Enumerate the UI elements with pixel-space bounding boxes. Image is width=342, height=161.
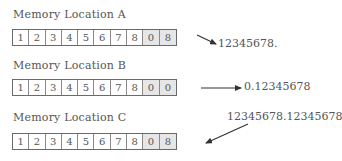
arrow-c-icon — [206, 124, 248, 143]
digit-cell: 6 — [94, 80, 110, 95]
digit-cell: 7 — [111, 134, 127, 149]
digit-cell: 0 — [143, 80, 159, 95]
location-a-cells: 1234567808 — [12, 29, 177, 46]
digit-cell: 1 — [13, 134, 29, 149]
location-c-label: Memory Location C — [13, 111, 126, 124]
digit-cell: 8 — [127, 134, 143, 149]
digit-cell: 5 — [78, 80, 94, 95]
digit-cell: 8 — [160, 134, 176, 149]
digit-cell: 5 — [78, 30, 94, 45]
location-a-value: 12345678. — [218, 37, 278, 50]
location-c-value: 12345678.12345678 — [227, 110, 342, 123]
digit-cell: 7 — [111, 30, 127, 45]
digit-cell: 8 — [127, 30, 143, 45]
digit-cell: 3 — [46, 80, 62, 95]
digit-cell: 4 — [62, 80, 78, 95]
digit-cell: 0 — [143, 134, 159, 149]
digit-cell: 0 — [143, 30, 159, 45]
location-b-label: Memory Location B — [13, 59, 126, 72]
digit-cell: 6 — [94, 134, 110, 149]
digit-cell: 2 — [29, 134, 45, 149]
digit-cell: 1 — [13, 30, 29, 45]
location-b-value: 0.12345678 — [244, 80, 310, 93]
digit-cell: 4 — [62, 30, 78, 45]
digit-cell: 8 — [160, 30, 176, 45]
digit-cell: 4 — [62, 134, 78, 149]
digit-cell: 6 — [94, 30, 110, 45]
location-c-cells: 1234567808 — [12, 133, 177, 150]
digit-cell: 5 — [78, 134, 94, 149]
digit-cell: 8 — [127, 80, 143, 95]
location-a-label: Memory Location A — [13, 8, 126, 21]
digit-cell: 3 — [46, 30, 62, 45]
digit-cell: 2 — [29, 30, 45, 45]
location-b-cells: 1234567800 — [12, 79, 177, 96]
digit-cell: 0 — [160, 80, 176, 95]
digit-cell: 2 — [29, 80, 45, 95]
digit-cell: 1 — [13, 80, 29, 95]
digit-cell: 3 — [46, 134, 62, 149]
digit-cell: 7 — [111, 80, 127, 95]
arrow-a-icon — [197, 35, 216, 44]
